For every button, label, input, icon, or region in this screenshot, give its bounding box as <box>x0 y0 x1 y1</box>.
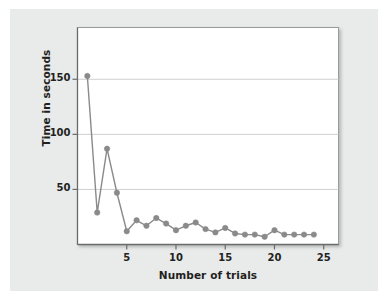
data-line <box>87 76 314 237</box>
figure: Time in seconds Number of trials 5010015… <box>0 0 388 300</box>
x-axis-label: Number of trials <box>77 269 339 281</box>
x-tick-label: 10 <box>161 252 191 263</box>
x-tick-label: 20 <box>259 252 289 263</box>
x-tick-label: 25 <box>309 252 339 263</box>
y-axis-label: Time in seconds <box>40 18 52 178</box>
y-tick-label: 150 <box>37 72 71 83</box>
y-tick-label: 100 <box>37 127 71 138</box>
x-tick-label: 5 <box>112 252 142 263</box>
gridlines <box>78 79 339 189</box>
y-tick-label: 50 <box>37 182 71 193</box>
x-tick-label: 15 <box>210 252 240 263</box>
data-markers <box>85 73 317 239</box>
axis-lines <box>78 28 339 245</box>
